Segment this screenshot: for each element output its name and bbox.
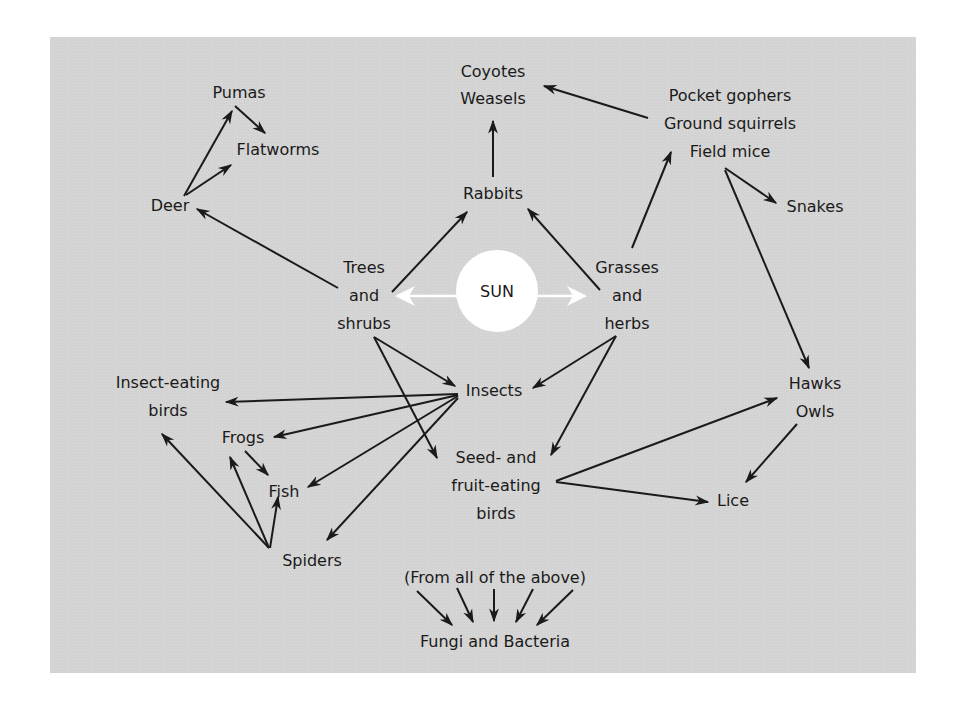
node-fish: Fish <box>269 482 300 501</box>
grasses-to-rabbits-arrow <box>528 209 600 290</box>
seedbirds-to-lice-arrow <box>556 482 708 502</box>
spiders-to-fish-arrow <box>270 497 278 548</box>
node-insect-eating-birds: Insect-eating birds <box>116 369 221 425</box>
trees-to-deer-arrow <box>197 209 338 288</box>
insects-to-insectbirds-arrow <box>226 394 458 402</box>
seedbirds-to-hawks-arrow <box>556 398 777 481</box>
node-lice: Lice <box>717 491 749 510</box>
frogs-to-fish-arrow <box>245 451 268 475</box>
grasses-to-seedbirds-arrow <box>551 336 616 455</box>
grasses-to-insects-arrow <box>533 336 616 388</box>
spiders-to-insectbirds-arrow <box>162 434 269 548</box>
trees-to-rabbits-arrow <box>392 212 467 292</box>
hawks-to-lice-arrow <box>746 424 797 482</box>
node-insects: Insects <box>466 381 522 400</box>
node-spiders: Spiders <box>282 551 342 570</box>
node-snakes: Snakes <box>787 197 844 216</box>
remains-to-decomposers-arrow-4 <box>516 589 533 622</box>
node-rabbits: Rabbits <box>463 184 523 203</box>
remains-to-decomposers-arrow-5 <box>537 590 573 625</box>
insects-to-fish-arrow <box>308 396 458 487</box>
node-seed-fruit-birds: Seed- and fruit-eating birds <box>451 444 541 528</box>
insects-to-frogs-arrow <box>274 395 458 437</box>
node-frogs: Frogs <box>222 428 265 447</box>
remains-to-decomposers-arrow-2 <box>457 588 473 622</box>
remains-to-decomposers-arrow-1 <box>417 591 452 625</box>
node-from-all: (From all of the above) <box>404 568 586 587</box>
node-decomposers: Fungi and Bacteria <box>420 632 570 651</box>
insects-to-spiders-arrow <box>327 398 458 540</box>
grasses-to-rodents-arrow <box>632 152 671 248</box>
node-hawks-owls: Hawks Owls <box>789 370 842 426</box>
sun-circle: SUN <box>456 250 538 332</box>
node-pumas: Pumas <box>212 83 265 102</box>
deer-to-pumas-arrow <box>184 111 232 196</box>
node-flatworms: Flatworms <box>237 140 320 159</box>
node-rodents: Pocket gophers Ground squirrels Field mi… <box>664 82 796 166</box>
node-coyotes-weasels: Coyotes Weasels <box>460 58 526 112</box>
node-trees-shrubs: Trees and shrubs <box>337 254 391 338</box>
rodents-to-coyotes-arrow <box>544 86 648 118</box>
node-deer: Deer <box>151 196 190 215</box>
sun-label: SUN <box>480 282 514 301</box>
node-grasses-herbs: Grasses and herbs <box>595 254 659 338</box>
pumas-to-flatworms-arrow <box>235 106 265 133</box>
